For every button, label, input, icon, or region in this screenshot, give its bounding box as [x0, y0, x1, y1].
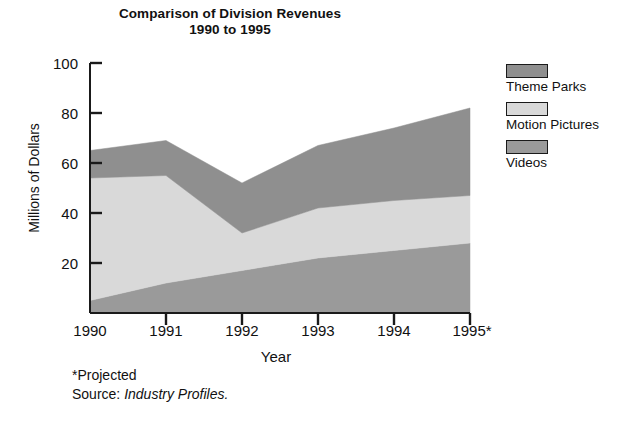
footnote-source-name: Industry Profiles. — [124, 386, 228, 402]
x-tick-label-1994: 1994 — [359, 322, 429, 339]
x-tick-label-1990: 1990 — [55, 322, 125, 339]
y-axis-title: Millions of Dollars — [26, 98, 42, 258]
x-tick-label-1995: 1995* — [437, 322, 507, 339]
legend-entry-theme-parks: Theme Parks — [506, 64, 618, 95]
x-tick-label-1992: 1992 — [207, 322, 277, 339]
y-tick-label-40: 40 — [36, 205, 78, 222]
footnote-source: Source: Industry Profiles. — [72, 385, 228, 404]
footnote-source-prefix: Source: — [72, 386, 124, 402]
chart-root: Comparison of Division Revenues 1990 to … — [0, 0, 618, 422]
x-tick-label-1991: 1991 — [131, 322, 201, 339]
area-series-motion-pictures — [90, 176, 470, 301]
footnote-projected: *Projected — [72, 366, 228, 385]
y-tick-label-20: 20 — [36, 255, 78, 272]
y-tick-label-60: 60 — [36, 155, 78, 172]
legend-entry-videos: Videos — [506, 140, 618, 171]
legend-entry-motion-pictures: Motion Pictures — [506, 102, 618, 133]
legend-label-videos: Videos — [506, 155, 618, 171]
x-tick-label-1993: 1993 — [283, 322, 353, 339]
legend-swatch-videos — [506, 140, 548, 154]
area-series-group — [90, 108, 470, 313]
y-tick-label-80: 80 — [36, 105, 78, 122]
legend-label-motion-pictures: Motion Pictures — [506, 117, 618, 133]
legend-swatch-theme-parks — [506, 64, 548, 78]
legend: Theme Parks Motion Pictures Videos — [506, 64, 618, 178]
y-tick-label-100: 100 — [36, 55, 78, 72]
footnote: *Projected Source: Industry Profiles. — [72, 366, 228, 404]
x-axis-title: Year — [236, 348, 316, 365]
axis-lines-group — [90, 63, 470, 325]
area-series-theme-parks — [90, 108, 470, 233]
legend-swatch-motion-pictures — [506, 102, 548, 116]
area-series-videos — [90, 243, 470, 313]
legend-label-theme-parks: Theme Parks — [506, 79, 618, 95]
